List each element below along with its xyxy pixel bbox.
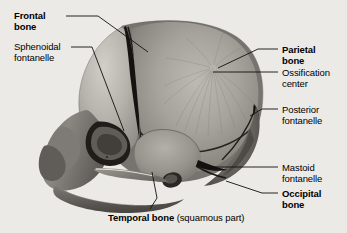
label-frontal-bone-line-1: bone [14, 21, 46, 32]
ossification-center-point [210, 65, 216, 71]
fetal-skull-figure: FrontalboneSphenoidalfontanelleParietalb… [0, 0, 347, 233]
label-ossification-center-line-0: Ossification [282, 67, 330, 78]
label-ossification-center: Ossificationcenter [282, 67, 330, 90]
label-sphenoidal-fontanelle: Sphenoidalfontanelle [14, 41, 61, 64]
label-occipital-bone-line-0: Occipital [282, 188, 321, 199]
label-sphenoidal-fontanelle-line-0: Sphenoidal [14, 41, 61, 52]
label-mastoid-fontanelle: Mastoidfontanelle [282, 162, 322, 185]
label-parietal-bone-line-1: bone [282, 55, 316, 66]
label-frontal-bone-line-0: Frontal [14, 10, 46, 21]
label-occipital-bone: Occipitalbone [282, 188, 321, 211]
label-sphenoidal-fontanelle-line-1: fontanelle [14, 52, 61, 63]
label-posterior-fontanelle: Posteriorfontanelle [282, 104, 322, 127]
caption-temporal-bone: Temporal bone (squamous part) [108, 212, 244, 223]
caption-normal-text: (squamous part) [174, 212, 244, 223]
label-posterior-fontanelle-line-0: Posterior [282, 104, 322, 115]
label-posterior-fontanelle-line-1: fontanelle [282, 115, 322, 126]
caption-bold-text: Temporal bone [108, 212, 174, 223]
label-parietal-bone-line-0: Parietal [282, 44, 316, 55]
label-parietal-bone: Parietalbone [282, 44, 316, 67]
label-ossification-center-line-1: center [282, 78, 330, 89]
label-mastoid-fontanelle-line-0: Mastoid [282, 162, 322, 173]
label-mastoid-fontanelle-line-1: fontanelle [282, 173, 322, 184]
label-frontal-bone: Frontalbone [14, 10, 46, 33]
nutrient-foramen [106, 156, 108, 158]
label-occipital-bone-line-1: bone [282, 199, 321, 210]
